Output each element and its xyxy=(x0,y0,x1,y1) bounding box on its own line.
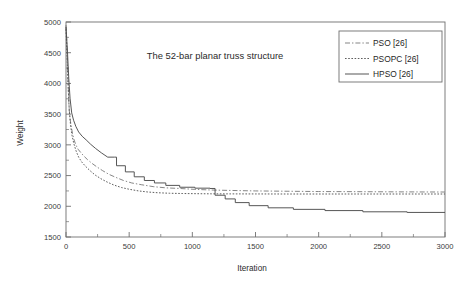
x-axis-label: Iteration xyxy=(237,264,267,273)
x-axis-ticks xyxy=(66,232,445,237)
y-tick-label: 2000 xyxy=(44,202,61,211)
chart-legend[interactable]: PSO [26]PSOPC [26]HPSO [26] xyxy=(339,31,442,82)
chart-figure: 15002000250030003500400045005000 0500100… xyxy=(0,0,461,285)
y-tick-label: 4500 xyxy=(44,49,61,58)
y-axis-label: Weight xyxy=(16,120,25,146)
y-axis-ticks xyxy=(66,22,71,237)
legend-label-psopc: PSOPC [26] xyxy=(373,54,419,64)
x-axis-tick-labels: 050010001500200025003000 xyxy=(64,242,454,251)
y-axis-tick-labels: 15002000250030003500400045005000 xyxy=(44,18,61,242)
y-tick-label: 2500 xyxy=(44,171,61,180)
y-tick-label: 4000 xyxy=(44,79,61,88)
y-tick-label: 5000 xyxy=(44,18,61,27)
x-tick-label: 3000 xyxy=(437,242,454,251)
y-tick-label: 3500 xyxy=(44,110,61,119)
x-tick-label: 2000 xyxy=(310,242,327,251)
x-tick-label: 0 xyxy=(64,242,68,251)
y-tick-label: 3000 xyxy=(44,141,61,150)
legend-label-hpso: HPSO [26] xyxy=(373,69,413,79)
x-tick-label: 1000 xyxy=(184,242,201,251)
line-chart-svg: 15002000250030003500400045005000 0500100… xyxy=(0,0,461,285)
y-tick-label: 1500 xyxy=(44,233,61,242)
x-tick-label: 500 xyxy=(123,242,136,251)
chart-title: The 52-bar planar truss structure xyxy=(147,50,284,61)
x-tick-label: 1500 xyxy=(247,242,264,251)
x-tick-label: 2500 xyxy=(373,242,390,251)
legend-label-pso: PSO [26] xyxy=(373,38,407,48)
